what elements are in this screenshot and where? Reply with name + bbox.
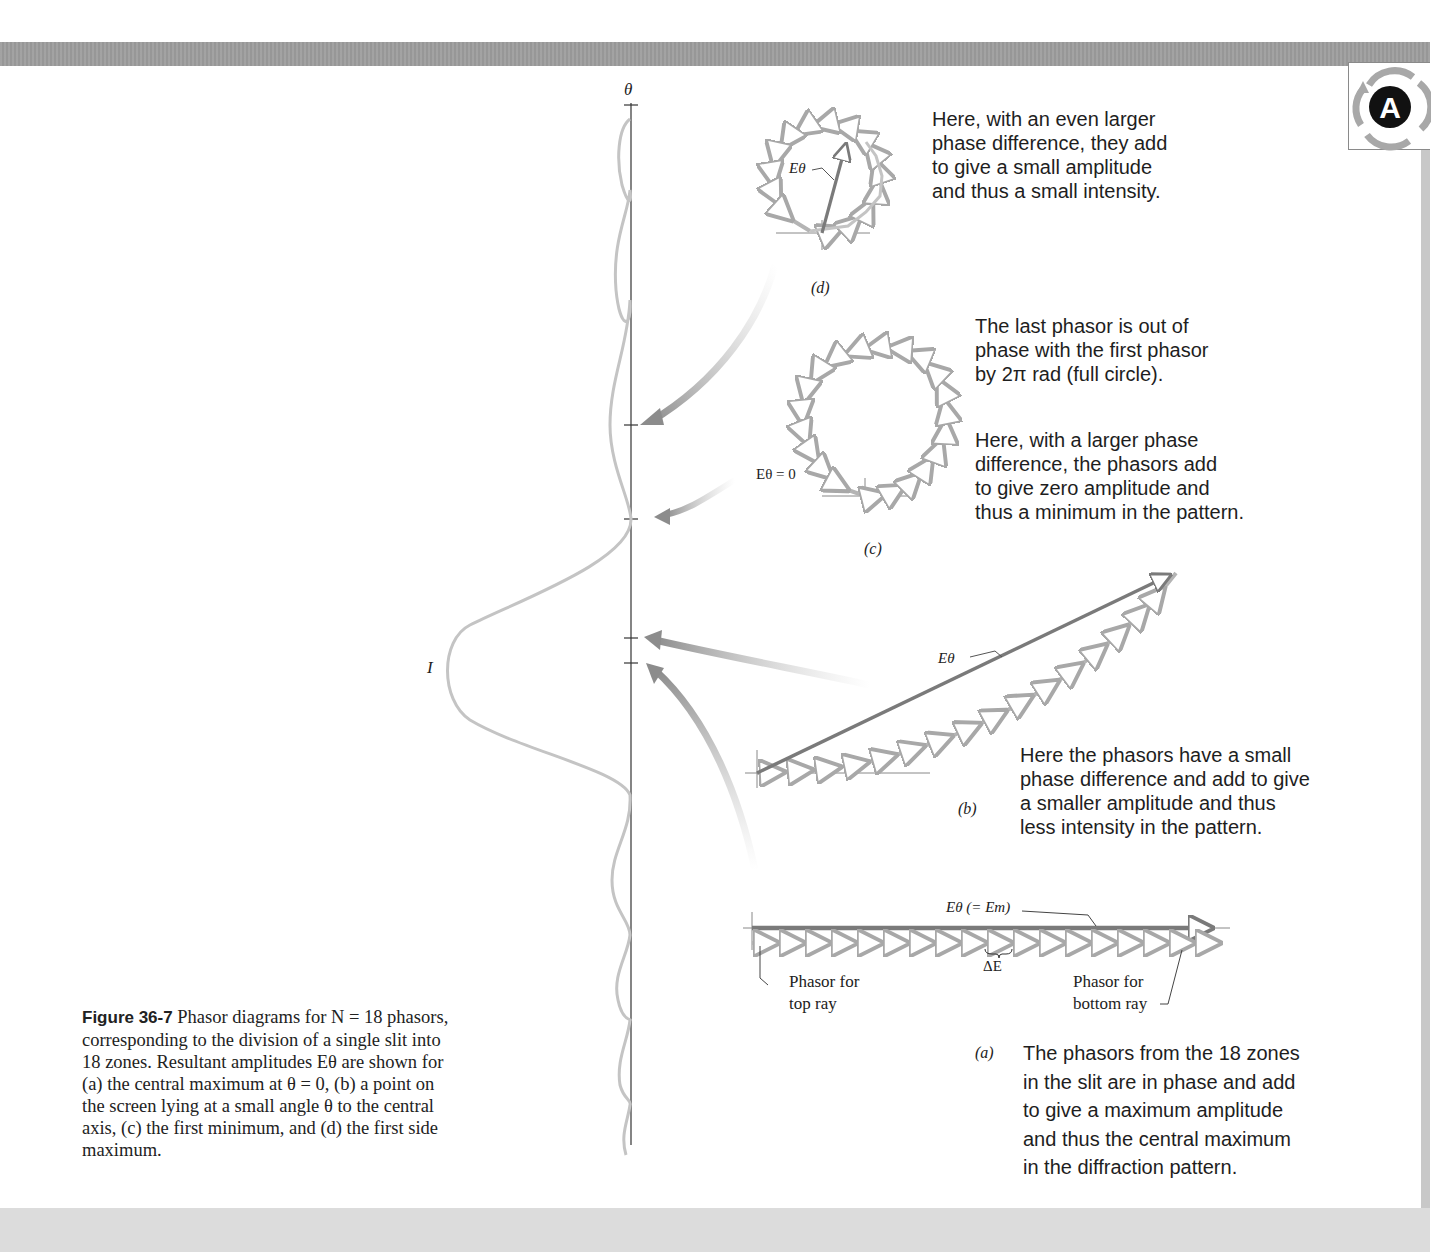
note-line: The last phasor is out of: [975, 314, 1208, 338]
note-line: in the diffraction pattern.: [1023, 1153, 1300, 1182]
label-line: bottom ray: [1073, 993, 1147, 1015]
figure-caption: Figure 36-7 Phasor diagrams for N = 18 p…: [82, 1006, 582, 1161]
note-line: Here the phasors have a small: [1020, 743, 1310, 767]
phasor-diagram-d: [774, 125, 882, 250]
panel-a-note: The phasors from the 18 zones in the sli…: [1023, 1039, 1300, 1182]
note-line: Here, with an even larger: [932, 107, 1167, 131]
caption-line: Figure 36-7 Phasor diagrams for N = 18 p…: [82, 1006, 582, 1029]
pointer-arrows: [640, 265, 870, 870]
panel-d-resultant-label: Eθ: [789, 160, 806, 177]
theta-axis: [624, 103, 638, 1145]
note-line: phase difference, they add: [932, 131, 1167, 155]
panel-c-label: (c): [864, 540, 882, 558]
note-line: and thus the central maximum: [1023, 1125, 1300, 1154]
figure-number: Figure 36-7: [82, 1008, 173, 1027]
intensity-axis-label: I: [427, 658, 433, 678]
panel-c-note-bottom: Here, with a larger phase difference, th…: [975, 428, 1244, 524]
note-line: to give a maximum amplitude: [1023, 1096, 1300, 1125]
top-ray-label: Phasor for top ray: [789, 971, 859, 1015]
note-line: Here, with a larger phase: [975, 428, 1244, 452]
caption-line: (a) the central maximum at θ = 0, (b) a …: [82, 1073, 582, 1095]
note-line: by 2π rad (full circle).: [975, 362, 1208, 386]
label-line: top ray: [789, 993, 859, 1015]
caption-line: corresponding to the division of a singl…: [82, 1029, 582, 1051]
note-line: a smaller amplitude and thus: [1020, 791, 1310, 815]
note-line: thus a minimum in the pattern.: [975, 500, 1244, 524]
panel-b-note: Here the phasors have a small phase diff…: [1020, 743, 1310, 839]
intensity-curve: [448, 119, 632, 1155]
panel-d-note: Here, with an even larger phase differen…: [932, 107, 1167, 203]
panel-c-resultant-label: Eθ = 0: [756, 466, 796, 483]
note-line: in the slit are in phase and add: [1023, 1068, 1300, 1097]
caption-line: axis, (c) the first minimum, and (d) the…: [82, 1117, 582, 1139]
theta-axis-label: θ: [624, 80, 632, 100]
caption-line: maximum.: [82, 1139, 582, 1161]
note-line: difference, the phasors add: [975, 452, 1244, 476]
bottom-ray-label: Phasor for bottom ray: [1073, 971, 1147, 1015]
note-line: and thus a small intensity.: [932, 179, 1167, 203]
note-line: to give a small amplitude: [932, 155, 1167, 179]
panel-b-label: (b): [958, 800, 977, 818]
panel-a-resultant-label: Eθ (= Em): [946, 899, 1010, 916]
panel-a-label: (a): [975, 1044, 994, 1062]
panel-b-resultant-label: Eθ: [938, 650, 955, 667]
note-line: to give zero amplitude and: [975, 476, 1244, 500]
panel-a-delta-label: ΔE: [983, 958, 1002, 975]
caption-text: Phasor diagrams for N = 18 phasors,: [173, 1007, 449, 1027]
panel-c-note-top: The last phasor is out of phase with the…: [975, 314, 1208, 386]
label-line: Phasor for: [1073, 971, 1147, 993]
label-line: Phasor for: [789, 971, 859, 993]
note-line: phase difference and add to give: [1020, 767, 1310, 791]
note-line: phase with the first phasor: [975, 338, 1208, 362]
caption-line: the screen lying at a small angle θ to t…: [82, 1095, 582, 1117]
panel-d-label: (d): [811, 279, 830, 297]
note-line: less intensity in the pattern.: [1020, 815, 1310, 839]
note-line: The phasors from the 18 zones: [1023, 1039, 1300, 1068]
phasor-diagram-c: [803, 348, 946, 512]
caption-line: 18 zones. Resultant amplitudes Eθ are sh…: [82, 1051, 582, 1073]
